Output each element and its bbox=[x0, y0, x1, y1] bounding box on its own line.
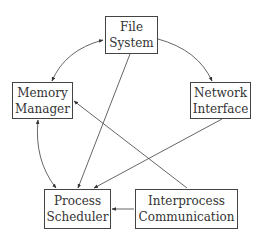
edge-ipc-memory bbox=[74, 101, 187, 188]
edge-memory-scheduler bbox=[37, 120, 56, 188]
node-label-line1: Interprocess bbox=[148, 193, 225, 209]
node-interprocess-communication: Interprocess Communication bbox=[135, 189, 238, 229]
node-process-scheduler: Process Scheduler bbox=[44, 189, 111, 229]
node-label-line2: Scheduler bbox=[47, 209, 109, 225]
node-memory-manager: Memory Manager bbox=[12, 82, 73, 119]
node-label-line1: Network bbox=[194, 85, 247, 101]
edge-filesystem-memory bbox=[52, 40, 103, 81]
node-network-interface: Network Interface bbox=[190, 82, 251, 119]
node-label-line2: Interface bbox=[193, 101, 249, 117]
edge-filesystem-scheduler bbox=[78, 54, 130, 188]
edge-filesystem-network bbox=[158, 39, 212, 81]
node-label-line1: Process bbox=[54, 193, 101, 209]
node-file-system: File System bbox=[105, 16, 158, 54]
node-label-line1: File bbox=[120, 19, 143, 35]
node-label-line1: Memory bbox=[17, 85, 68, 101]
node-label-line2: Manager bbox=[15, 101, 70, 117]
node-label-line2: System bbox=[109, 35, 153, 51]
node-label-line2: Communication bbox=[139, 209, 235, 225]
edge-network-scheduler bbox=[94, 119, 222, 188]
